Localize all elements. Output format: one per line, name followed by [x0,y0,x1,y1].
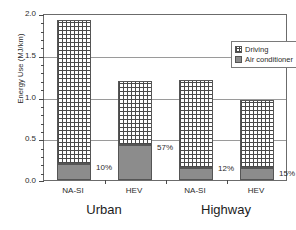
y-minor-tick-5 [41,65,44,66]
x-tick-3 [227,180,228,184]
group-label-urban: Urban [44,202,164,217]
y-tick-label-1-0: 1.0 [0,93,36,102]
y-axis-tick-labels: 2.0 1.5 1.0 0.5 0.0 [0,14,40,181]
percent-label-urban-hev: 57% [157,143,173,152]
chart-figure: Energy Use (MJ/km) 2.0 1.5 1.0 0.5 0.0 [0,0,296,230]
percent-label-urban-na-si: 10% [96,163,112,172]
x-tick-2 [166,180,167,184]
y-minor-tick-4 [41,48,44,49]
y-minor-tick-12 [41,132,44,133]
y-minor-tick-16 [41,174,44,175]
y-minor-tick-2 [41,32,44,33]
bar-segment-driving [118,81,152,145]
x-tick-label-urban-hev: HEV [104,186,164,195]
legend-swatch-driving-icon [235,46,242,53]
percent-label-highway-na-si: 12% [218,164,234,173]
y-major-tick-2-0 [39,15,44,16]
bar-urban-na-si [57,20,91,180]
bar-segment-air-conditioner [179,168,213,181]
y-major-tick-1-5 [39,57,44,58]
y-minor-tick-14 [41,157,44,158]
legend-entry-driving: Driving [235,45,293,54]
y-minor-tick-7 [41,82,44,83]
y-major-tick-0-0 [39,181,44,182]
y-minor-tick-15 [41,165,44,166]
y-minor-tick-6 [41,73,44,74]
y-major-tick-0-5 [39,140,44,141]
y-minor-tick-1 [41,23,44,24]
y-minor-tick-3 [41,40,44,41]
bar-segment-air-conditioner [57,164,91,180]
y-minor-tick-9 [41,107,44,108]
bar-segment-air-conditioner [118,145,152,180]
x-tick-label-highway-na-si: NA-SI [165,186,225,195]
bar-segment-air-conditioner [240,168,274,180]
x-axis-tick-labels: NA-SI HEV NA-SI HEV [43,186,287,200]
y-tick-label-2-0: 2.0 [0,9,36,18]
y-minor-tick-13 [41,149,44,150]
x-axis-group-labels: Urban Highway [43,202,287,224]
percent-label-highway-hev: 15% [279,169,295,178]
y-tick-label-0-0: 0.0 [0,176,36,185]
bar-segment-driving [240,100,274,169]
x-tick-1 [105,180,106,184]
plot-area: 10% 57% 12% 15% Driving Air cond [43,14,287,181]
y-minor-tick-10 [41,115,44,116]
bar-urban-hev [118,81,152,180]
bar-segment-driving [57,20,91,164]
group-label-highway: Highway [166,202,286,217]
bar-highway-hev [240,100,274,180]
bar-highway-na-si [179,80,213,180]
bar-segment-driving [179,80,213,168]
legend-label-driving: Driving [245,46,268,54]
y-minor-tick-11 [41,124,44,125]
y-minor-tick-8 [41,90,44,91]
legend-entry-air-conditioner: Air conditioner [235,55,293,64]
legend-swatch-air-conditioner-icon [235,56,242,63]
chart-legend: Driving Air conditioner [231,41,296,68]
x-tick-label-highway-hev: HEV [226,186,286,195]
y-major-tick-1-0 [39,99,44,100]
legend-label-air-conditioner: Air conditioner [245,56,293,64]
y-tick-label-0-5: 0.5 [0,134,36,143]
y-tick-label-1-5: 1.5 [0,51,36,60]
x-tick-label-urban-na-si: NA-SI [43,186,103,195]
